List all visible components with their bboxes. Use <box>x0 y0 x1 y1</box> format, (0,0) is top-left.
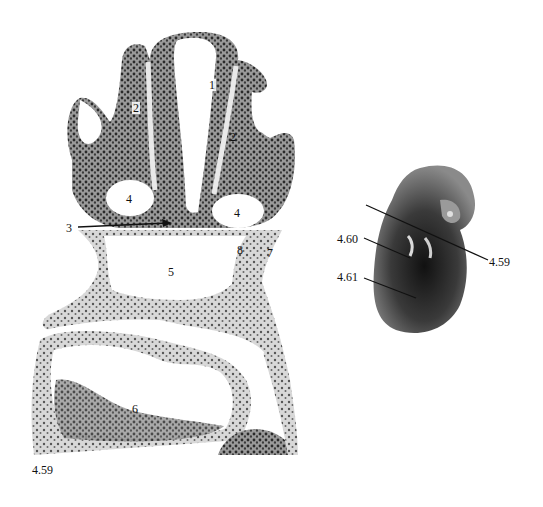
label-5: 5 <box>168 266 174 278</box>
label-2-left: 2 <box>132 102 140 114</box>
plane-label-4-60: 4.60 <box>337 233 358 245</box>
label-4-right: 4 <box>234 207 240 219</box>
plane-label-4-61: 4.61 <box>337 271 358 283</box>
label-2-right: 2 <box>230 131 236 143</box>
histology-figure: 1 2 2 3 4 4 5 6 7 8 4.59 4.60 4.61 4.59 <box>0 0 543 507</box>
label-1: 1 <box>208 79 216 91</box>
figure-caption: 4.59 <box>32 463 53 478</box>
label-3: 3 <box>66 222 72 234</box>
plane-label-4-59: 4.59 <box>489 256 510 268</box>
label-6: 6 <box>132 403 138 415</box>
label-7: 7 <box>267 247 273 259</box>
label-8: 8 <box>237 244 243 256</box>
label-4-left: 4 <box>126 193 132 205</box>
neural-tube-section <box>67 32 295 228</box>
